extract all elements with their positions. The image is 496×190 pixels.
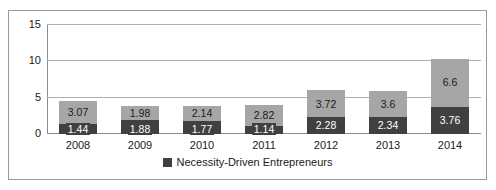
- bar-segment-upper-2013[interactable]: 3.6: [369, 91, 407, 117]
- x-axis-tick-label-2014: 2014: [438, 139, 462, 151]
- y-axis-tick-label: 0: [35, 127, 41, 139]
- bar-series-container: 3.071.4420081.981.8820092.141.7720102.82…: [47, 25, 481, 134]
- bar-segment-necessity-driven-2013[interactable]: 2.34: [369, 117, 407, 134]
- bar-value-label: 2.82: [254, 110, 274, 121]
- bar-value-label: 3.07: [68, 107, 88, 118]
- bar-value-label: 2.34: [378, 120, 398, 131]
- bar-segment-upper-2010[interactable]: 2.14: [183, 106, 221, 122]
- bar-value-label: 2.14: [192, 108, 212, 119]
- chart-figure: 051015 3.071.4420081.981.8820092.141.772…: [8, 10, 487, 180]
- bar-segment-necessity-driven-2014[interactable]: 3.76: [431, 107, 469, 134]
- bar-segment-necessity-driven-2010[interactable]: 1.77: [183, 121, 221, 134]
- y-axis-tick-label: 5: [35, 91, 41, 103]
- bar-segment-necessity-driven-2009[interactable]: 1.88: [121, 120, 159, 134]
- x-axis-tick-label-2013: 2013: [376, 139, 400, 151]
- chart-legend: Necessity-Driven Entrepreneurs: [9, 156, 486, 168]
- bar-group-2014[interactable]: 6.63.762014: [431, 59, 469, 134]
- bar-value-label: 1.88: [128, 123, 152, 136]
- bar-segment-upper-2009[interactable]: 1.98: [121, 106, 159, 120]
- bar-group-2013[interactable]: 3.62.342013: [369, 91, 407, 134]
- bar-group-2008[interactable]: 3.071.442008: [59, 101, 97, 134]
- y-axis-tick-label: 15: [29, 18, 41, 30]
- x-axis-tick-label-2010: 2010: [190, 139, 214, 151]
- bar-value-label: 1.98: [130, 108, 150, 119]
- bar-segment-necessity-driven-2012[interactable]: 2.28: [307, 117, 345, 134]
- plot-area: 051015 3.071.4420081.981.8820092.141.772…: [47, 25, 481, 134]
- bar-value-label: 3.76: [440, 115, 460, 126]
- legend-label-necessity-driven: Necessity-Driven Entrepreneurs: [177, 156, 333, 168]
- bar-value-label: 1.77: [190, 123, 214, 136]
- bar-segment-necessity-driven-2008[interactable]: 1.44: [59, 124, 97, 134]
- y-axis-tick-label: 10: [29, 54, 41, 66]
- bar-group-2011[interactable]: 2.821.142011: [245, 105, 283, 134]
- x-axis-tick-label-2011: 2011: [252, 139, 276, 151]
- bar-segment-upper-2012[interactable]: 3.72: [307, 90, 345, 117]
- bar-value-label: 2.28: [316, 120, 336, 131]
- bar-value-label: 1.14: [252, 123, 276, 136]
- x-axis-tick-label-2012: 2012: [314, 139, 338, 151]
- bar-value-label: 3.72: [316, 99, 336, 110]
- bar-segment-necessity-driven-2011[interactable]: 1.14: [245, 126, 283, 134]
- bar-value-label: 1.44: [66, 123, 90, 136]
- bar-value-label: 3.6: [381, 99, 396, 110]
- bar-group-2009[interactable]: 1.981.882009: [121, 106, 159, 134]
- x-axis-tick-label-2009: 2009: [128, 139, 152, 151]
- x-axis-tick-label-2008: 2008: [66, 139, 90, 151]
- bar-group-2010[interactable]: 2.141.772010: [183, 106, 221, 134]
- bar-group-2012[interactable]: 3.722.282012: [307, 90, 345, 134]
- bar-segment-upper-2008[interactable]: 3.07: [59, 101, 97, 123]
- bar-segment-upper-2014[interactable]: 6.6: [431, 59, 469, 107]
- bar-value-label: 6.6: [443, 77, 458, 88]
- legend-swatch-necessity-driven: [163, 158, 172, 167]
